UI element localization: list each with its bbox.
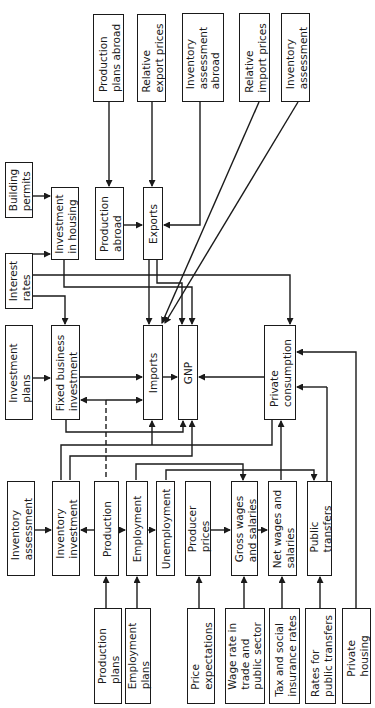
node-label: Production plans abroad: [96, 24, 121, 92]
node-imports: Imports: [143, 325, 163, 420]
node-exports: Exports: [143, 187, 163, 260]
node-inventory-assessment: Inventory assessment: [7, 481, 35, 576]
node-relative-import-prices: Relative import prices: [239, 13, 270, 102]
node-net-wages: Net wages and salaries: [268, 481, 297, 576]
node-producer-prices: Producer prices: [185, 481, 211, 576]
node-label: Wage rate in trade and public sector: [226, 622, 264, 690]
node-label: Inventory assessment: [283, 26, 308, 88]
node-inventory-assessment-abroad: Inventory assessment abroad: [182, 13, 224, 102]
node-employment: Employment: [126, 481, 148, 576]
node-label: Production abroad: [97, 196, 122, 252]
node-production-plans: Production plans: [94, 608, 122, 704]
node-tax-social: Tax and social insurance rates: [269, 608, 300, 704]
node-gnp: GNP: [178, 325, 198, 420]
node-label: Production: [100, 501, 113, 557]
node-label: Public transfers: [307, 505, 332, 552]
node-interest-rates: Interest rates: [5, 253, 33, 309]
node-label: Relative import prices: [242, 23, 267, 93]
node-private-housing: Private housing: [342, 608, 371, 704]
node-investment-in-housing: Investment in housing: [51, 187, 79, 260]
node-label: Private consumption: [268, 339, 293, 407]
node-price-expectations: Price expectations: [187, 608, 215, 704]
node-production-plans-abroad: Production plans abroad: [93, 14, 124, 102]
node-fixed-business-investment: Fixed business investment: [51, 325, 80, 420]
node-inventory-assessment-top: Inventory assessment: [281, 13, 310, 102]
node-label: Investment plans: [7, 343, 32, 402]
node-building-permits: Building permits: [5, 162, 33, 218]
node-production: Production: [94, 481, 119, 576]
node-label: Gross wages and salaries: [232, 495, 257, 562]
node-unemployment: Unemployment: [156, 481, 175, 576]
node-label: Interest rates: [7, 261, 32, 301]
node-label: Employment: [131, 495, 144, 562]
node-label: Inventory assessment abroad: [184, 26, 222, 88]
node-investment-plans: Investment plans: [5, 325, 33, 420]
node-label: Exports: [147, 204, 160, 244]
node-public-transfers: Public transfers: [307, 481, 332, 576]
node-label: Investment in housing: [53, 194, 78, 253]
node-label: Inventory investment: [54, 499, 79, 558]
node-inventory-investment: Inventory investment: [52, 481, 80, 576]
node-label: Imports: [147, 352, 160, 392]
node-label: Tax and social insurance rates: [272, 615, 297, 696]
node-label: Fixed business investment: [53, 334, 78, 410]
node-relative-export-prices: Relative export prices: [137, 14, 166, 102]
node-gross-wages: Gross wages and salaries: [231, 481, 258, 576]
node-label: Unemployment: [159, 488, 172, 569]
node-label: Inventory assessment: [9, 497, 34, 559]
node-private-consumption: Private consumption: [264, 325, 296, 420]
node-wage-rate: Wage rate in trade and public sector: [225, 608, 265, 704]
node-rates-public-transfers: Rates for public transfers: [305, 608, 336, 704]
node-production-abroad: Production abroad: [95, 187, 124, 260]
node-label: Employment plans: [126, 623, 151, 690]
node-label: Producer prices: [186, 505, 211, 552]
flow-diagram: Production plans abroadRelative export p…: [0, 0, 375, 708]
node-label: GNP: [182, 361, 195, 383]
node-label: Relative export prices: [139, 24, 164, 93]
node-employment-plans: Employment plans: [125, 608, 151, 704]
node-label: Price expectations: [189, 622, 214, 690]
node-label: Private housing: [344, 635, 369, 676]
node-label: Rates for public transfers: [308, 615, 333, 697]
node-label: Production plans: [96, 628, 121, 684]
node-label: Net wages and salaries: [270, 489, 295, 567]
node-label: Building permits: [7, 169, 32, 212]
